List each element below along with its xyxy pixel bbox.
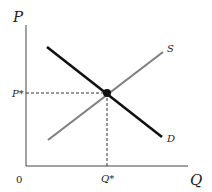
y-axis-label: P [12,8,24,26]
equilibrium-price-label: P* [11,88,24,99]
x-axis-label: Q [190,171,202,189]
origin-label: 0 [16,174,22,185]
supply-label: S [167,43,174,54]
equilibrium-point [103,89,111,97]
demand-label: D [166,133,175,144]
supply-demand-diagram: P Q 0 P* Q* S D [0,0,212,192]
equilibrium-quantity-label: Q* [101,173,114,184]
